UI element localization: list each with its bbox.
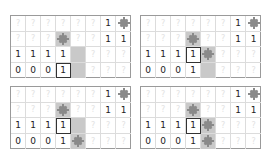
grid-cell[interactable]: 1 — [186, 47, 201, 63]
grid-cell[interactable]: ? — [141, 87, 156, 103]
grid-cell[interactable]: 1 — [56, 47, 71, 63]
grid-cell[interactable] — [56, 103, 71, 119]
grid-cell[interactable]: 1 — [231, 103, 246, 119]
grid-cell[interactable]: 1 — [41, 47, 56, 63]
grid-cell[interactable]: ? — [141, 32, 156, 48]
grid-cell[interactable]: ? — [86, 103, 101, 119]
grid-cell[interactable]: ? — [156, 32, 171, 48]
grid-cell[interactable]: ? — [216, 118, 231, 134]
grid-cell[interactable]: 1 — [141, 118, 156, 134]
grid-cell[interactable]: ? — [231, 63, 246, 79]
grid-cell[interactable]: ? — [216, 134, 231, 150]
grid-cell[interactable]: ? — [71, 32, 86, 48]
grid-cell[interactable]: 1 — [171, 47, 186, 63]
grid-cell[interactable] — [186, 32, 201, 48]
grid-cell[interactable]: 0 — [41, 134, 56, 150]
grid-cell[interactable]: ? — [216, 32, 231, 48]
grid-cell[interactable]: ? — [141, 103, 156, 119]
grid-cell[interactable]: ? — [86, 16, 101, 32]
grid-cell[interactable]: ? — [216, 16, 231, 32]
grid-cell[interactable]: ? — [86, 118, 101, 134]
grid-cell[interactable] — [201, 118, 216, 134]
grid-cell[interactable]: ? — [101, 63, 116, 79]
grid-cell[interactable]: ? — [246, 118, 261, 134]
grid-cell[interactable]: ? — [41, 87, 56, 103]
grid-cell[interactable]: 1 — [116, 32, 131, 48]
grid-cell[interactable]: ? — [201, 32, 216, 48]
grid-cell[interactable] — [186, 103, 201, 119]
grid-cell[interactable]: 1 — [186, 63, 201, 79]
grid-cell[interactable]: 1 — [101, 87, 116, 103]
grid-cell[interactable]: ? — [171, 87, 186, 103]
grid-cell[interactable]: 0 — [141, 134, 156, 150]
grid-cell[interactable] — [71, 63, 86, 79]
grid-cell[interactable]: 1 — [11, 47, 26, 63]
grid-cell[interactable] — [246, 87, 261, 103]
grid-cell[interactable]: ? — [141, 16, 156, 32]
grid-cell[interactable]: ? — [186, 16, 201, 32]
grid-cell[interactable]: ? — [41, 103, 56, 119]
grid-cell[interactable] — [71, 134, 86, 150]
grid-cell[interactable]: 1 — [26, 47, 41, 63]
grid-cell[interactable]: 0 — [141, 63, 156, 79]
grid-cell[interactable]: 1 — [246, 32, 261, 48]
grid-cell[interactable]: ? — [101, 134, 116, 150]
grid-cell[interactable]: ? — [71, 87, 86, 103]
grid-cell[interactable]: 1 — [186, 118, 201, 134]
grid-cell[interactable]: ? — [56, 16, 71, 32]
grid-cell[interactable]: 1 — [11, 118, 26, 134]
grid-cell[interactable]: ? — [116, 118, 131, 134]
grid-cell[interactable]: ? — [231, 118, 246, 134]
grid-cell[interactable]: 0 — [26, 134, 41, 150]
grid-cell[interactable]: 1 — [171, 118, 186, 134]
grid-cell[interactable]: ? — [26, 103, 41, 119]
grid-cell[interactable] — [116, 87, 131, 103]
grid-cell[interactable] — [201, 134, 216, 150]
grid-cell[interactable]: ? — [171, 16, 186, 32]
grid-cell[interactable]: ? — [216, 63, 231, 79]
grid-cell[interactable]: ? — [171, 32, 186, 48]
grid-cell[interactable]: ? — [231, 47, 246, 63]
grid-cell[interactable]: ? — [101, 118, 116, 134]
grid-cell[interactable]: ? — [26, 16, 41, 32]
grid-cell[interactable]: ? — [216, 87, 231, 103]
grid-cell[interactable]: ? — [246, 63, 261, 79]
grid-cell[interactable]: 1 — [231, 32, 246, 48]
grid-cell[interactable]: 0 — [156, 63, 171, 79]
grid-cell[interactable] — [71, 118, 86, 134]
grid-cell[interactable]: 1 — [101, 16, 116, 32]
grid-cell[interactable]: ? — [71, 103, 86, 119]
grid-cell[interactable] — [246, 16, 261, 32]
grid-cell[interactable]: 1 — [231, 87, 246, 103]
grid-cell[interactable]: ? — [246, 47, 261, 63]
grid-cell[interactable]: ? — [11, 87, 26, 103]
grid-cell[interactable]: ? — [116, 134, 131, 150]
grid-cell[interactable]: 1 — [246, 103, 261, 119]
grid-cell[interactable]: 0 — [26, 63, 41, 79]
grid-cell[interactable] — [56, 32, 71, 48]
grid-cell[interactable]: ? — [116, 47, 131, 63]
grid-cell[interactable]: ? — [86, 63, 101, 79]
grid-cell[interactable]: 1 — [141, 47, 156, 63]
grid-cell[interactable]: 0 — [11, 134, 26, 150]
grid-cell[interactable]: 0 — [156, 134, 171, 150]
grid-cell[interactable]: ? — [216, 103, 231, 119]
grid-cell[interactable]: 0 — [171, 134, 186, 150]
grid-cell[interactable]: 1 — [186, 134, 201, 150]
grid-cell[interactable]: ? — [56, 87, 71, 103]
grid-cell[interactable] — [201, 63, 216, 79]
grid-cell[interactable]: ? — [201, 103, 216, 119]
grid-cell[interactable]: ? — [246, 134, 261, 150]
grid-cell[interactable]: ? — [171, 103, 186, 119]
grid-cell[interactable] — [71, 47, 86, 63]
grid-cell[interactable]: 1 — [156, 118, 171, 134]
grid-cell[interactable] — [116, 16, 131, 32]
grid-cell[interactable]: ? — [11, 32, 26, 48]
grid-cell[interactable]: ? — [11, 103, 26, 119]
grid-cell[interactable]: ? — [41, 16, 56, 32]
grid-cell[interactable]: 1 — [56, 118, 71, 134]
grid-cell[interactable]: 1 — [26, 118, 41, 134]
grid-cell[interactable]: 1 — [101, 32, 116, 48]
grid-cell[interactable]: ? — [86, 47, 101, 63]
grid-cell[interactable]: ? — [201, 16, 216, 32]
